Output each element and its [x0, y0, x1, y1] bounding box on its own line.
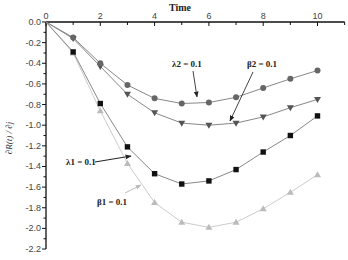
series-group: [46, 22, 321, 230]
data-point-circle: [287, 76, 293, 82]
data-point-circle: [97, 60, 103, 66]
annotation-label: λ2 = 0.1: [172, 59, 202, 69]
y-tick-label: -1.0: [25, 120, 41, 130]
data-point-circle: [206, 99, 212, 105]
annotation-arrow: [193, 71, 197, 97]
y-tick-label: -0.6: [25, 79, 41, 89]
data-point-circle: [124, 82, 130, 88]
data-point-triangle-up: [287, 189, 294, 195]
data-point-circle: [233, 94, 239, 100]
annotation-arrow: [125, 185, 141, 193]
data-point-triangle-down: [124, 92, 131, 98]
y-tick-label: -1.2: [25, 141, 41, 151]
data-point-triangle-up: [314, 171, 321, 177]
data-point-triangle-up: [124, 160, 131, 166]
data-point-square: [233, 167, 238, 172]
x-tick-label: 0: [43, 11, 48, 21]
annotation-label: λ1 = 0.1: [66, 157, 96, 167]
data-point-circle: [315, 68, 321, 74]
data-point-circle: [260, 85, 266, 91]
data-point-square: [98, 101, 103, 106]
data-point-triangle-down: [205, 123, 212, 129]
data-point-square: [206, 178, 211, 183]
data-point-square: [315, 113, 320, 118]
x-tick-label: 10: [312, 11, 322, 21]
y-axis-title: ∂R(t) / ∂j: [4, 121, 14, 154]
x-tick-label: 4: [152, 11, 157, 21]
y-tick-label: -1.8: [25, 203, 41, 213]
x-tick-label: 6: [206, 11, 211, 21]
data-point-triangle-up: [233, 219, 240, 225]
data-point-circle: [179, 101, 185, 107]
y-tick-label: -2.0: [25, 223, 41, 233]
x-axis-title: Time: [169, 2, 192, 13]
data-point-triangle-up: [178, 219, 185, 225]
y-tick-label: -0.4: [25, 58, 41, 68]
y-tick-label: -1.6: [25, 182, 41, 192]
data-point-square: [288, 133, 293, 138]
x-tick-label: 2: [98, 11, 103, 21]
annotation-label: β2 = 0.1: [247, 59, 278, 69]
y-tick-label: -1.4: [25, 161, 41, 171]
data-point-square: [125, 144, 130, 149]
y-tick-label: 0.0: [28, 17, 41, 27]
data-point-triangle-up: [260, 205, 267, 211]
data-point-circle: [70, 34, 76, 40]
data-point-square: [152, 171, 157, 176]
series-line: [46, 22, 318, 125]
data-point-square: [179, 181, 184, 186]
data-point-square: [261, 149, 266, 154]
y-tick-label: -0.8: [25, 100, 41, 110]
data-point-triangle-up: [151, 199, 158, 205]
y-tick-label: -0.2: [25, 38, 41, 48]
line-chart: 0246810Time0.0-0.2-0.4-0.6-0.8-1.0-1.2-1…: [0, 0, 348, 260]
annotations: λ2 = 0.1β2 = 0.1λ1 = 0.1β1 = 0.1: [66, 59, 278, 207]
y-tick-label: -2.2: [25, 244, 41, 254]
x-tick-label: 8: [261, 11, 266, 21]
data-point-circle: [152, 95, 158, 101]
annotation-label: β1 = 0.1: [97, 197, 128, 207]
data-point-square: [70, 49, 75, 54]
